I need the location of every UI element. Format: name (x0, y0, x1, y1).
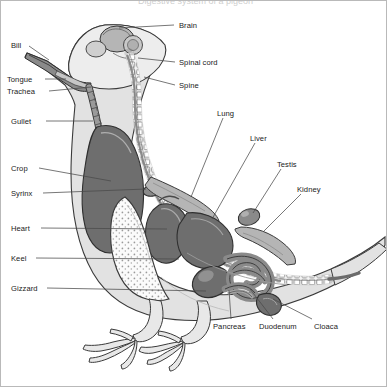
leader-line-testis (253, 169, 281, 213)
leader-line-spine (144, 77, 175, 85)
label-keel: Keel (11, 254, 26, 263)
leader-line-lung (191, 118, 223, 197)
label-pancreas: Pancreas (213, 322, 245, 331)
label-kidney: Kidney (297, 185, 321, 194)
label-liver: Liver (250, 134, 267, 143)
anatomy-figure: Digestive system of a pigeon (0, 0, 387, 387)
label-syrinx: Syrinx (11, 189, 32, 198)
leader-line-liver (212, 143, 255, 219)
label-spine: Spine (179, 81, 199, 90)
label-heart: Heart (11, 224, 30, 233)
leader-line-kidney (263, 194, 301, 232)
testis-organ (236, 206, 262, 228)
label-lung: Lung (217, 109, 234, 118)
label-brain: Brain (179, 21, 197, 30)
label-bill: Bill (11, 41, 21, 50)
label-gizzard: Gizzard (11, 284, 38, 293)
label-crop: Crop (11, 164, 28, 173)
label-duodenum: Duodenum (259, 322, 297, 331)
label-gullet: Gullet (11, 117, 31, 126)
label-spinal-cord: Spinal cord (179, 58, 218, 67)
label-trachea: Trachea (7, 87, 35, 96)
label-tongue: Tongue (7, 75, 32, 84)
label-cloaca: Cloaca (314, 322, 338, 331)
label-testis: Testis (277, 160, 297, 169)
